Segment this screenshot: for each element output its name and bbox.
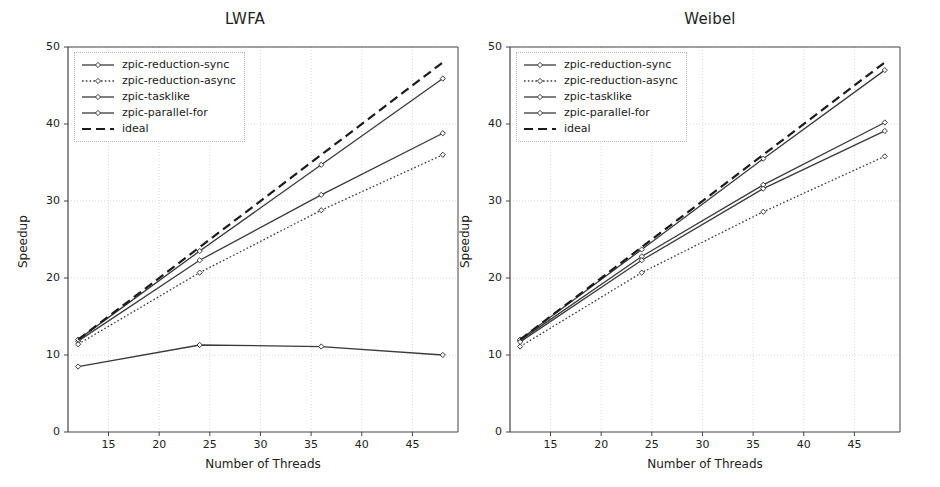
legend-line-sample-zpic-reduction-async <box>81 75 115 87</box>
data-point-marker <box>319 208 324 213</box>
legend-weibel: zpic-reduction-synczpic-reduction-asyncz… <box>516 52 687 142</box>
legend-label: zpic-reduction-async <box>564 75 678 87</box>
data-point-marker <box>639 270 644 275</box>
chart-panel-lwfa: LWFA zpic-reduction-synczpic-reduction-a… <box>0 0 470 487</box>
data-point-marker <box>882 154 887 159</box>
legend-item-zpic-parallel-for[interactable]: zpic-parallel-for <box>523 105 678 121</box>
legend-item-zpic-parallel-for[interactable]: zpic-parallel-for <box>81 105 236 121</box>
x-tick-label: 35 <box>738 438 768 451</box>
y-tick-label: 20 <box>468 271 502 284</box>
x-tick-label: 45 <box>397 438 427 451</box>
x-tick-label: 35 <box>296 438 326 451</box>
legend-label: zpic-reduction-sync <box>122 59 229 71</box>
x-tick-label: 20 <box>586 438 616 451</box>
y-tick-label: 50 <box>26 40 60 53</box>
legend-label: zpic-reduction-sync <box>564 59 671 71</box>
x-tick-label: 20 <box>144 438 174 451</box>
legend-item-zpic-tasklike[interactable]: zpic-tasklike <box>523 89 678 105</box>
data-point-marker <box>761 209 766 214</box>
y-axis-label: Speedup <box>458 215 472 268</box>
series-line-zpic-reduction-async <box>78 155 443 344</box>
y-tick-label: 50 <box>468 40 502 53</box>
legend-label: zpic-tasklike <box>122 91 190 103</box>
data-point-marker <box>440 131 445 136</box>
legend-lwfa: zpic-reduction-synczpic-reduction-asyncz… <box>74 52 245 142</box>
data-point-marker <box>197 270 202 275</box>
y-tick-label: 10 <box>468 348 502 361</box>
data-point-marker <box>197 342 202 347</box>
y-tick-label: 40 <box>26 117 60 130</box>
data-point-marker <box>882 128 887 133</box>
y-tick-label: 30 <box>26 194 60 207</box>
y-tick-label: 10 <box>26 348 60 361</box>
legend-line-sample-zpic-parallel-for <box>81 107 115 119</box>
legend-item-ideal[interactable]: ideal <box>81 121 236 137</box>
legend-item-zpic-reduction-async[interactable]: zpic-reduction-async <box>523 73 678 89</box>
x-axis-label: Number of Threads <box>510 457 900 471</box>
legend-line-sample-ideal <box>81 123 115 135</box>
legend-line-sample-zpic-reduction-sync <box>81 59 115 71</box>
y-tick-label: 0 <box>468 425 502 438</box>
legend-label: zpic-tasklike <box>564 91 632 103</box>
legend-line-sample-ideal <box>523 123 557 135</box>
x-tick-label: 40 <box>347 438 377 451</box>
x-tick-label: 15 <box>94 438 124 451</box>
legend-line-sample-zpic-parallel-for <box>523 107 557 119</box>
legend-item-zpic-reduction-sync[interactable]: zpic-reduction-sync <box>81 57 236 73</box>
legend-item-zpic-tasklike[interactable]: zpic-tasklike <box>81 89 236 105</box>
data-point-marker <box>440 352 445 357</box>
data-point-marker <box>319 192 324 197</box>
legend-line-sample-zpic-tasklike <box>523 91 557 103</box>
x-axis-label: Number of Threads <box>68 457 458 471</box>
data-point-marker <box>440 152 445 157</box>
x-tick-label: 25 <box>637 438 667 451</box>
y-tick-label: 30 <box>468 194 502 207</box>
y-tick-label: 40 <box>468 117 502 130</box>
legend-item-zpic-reduction-sync[interactable]: zpic-reduction-sync <box>523 57 678 73</box>
legend-line-sample-zpic-tasklike <box>81 91 115 103</box>
x-tick-label: 30 <box>687 438 717 451</box>
legend-line-sample-zpic-reduction-async <box>523 75 557 87</box>
legend-item-zpic-reduction-async[interactable]: zpic-reduction-async <box>81 73 236 89</box>
legend-line-sample-zpic-reduction-sync <box>523 59 557 71</box>
y-tick-label: 20 <box>26 271 60 284</box>
x-tick-label: 30 <box>245 438 275 451</box>
legend-label: zpic-parallel-for <box>564 107 650 119</box>
x-tick-label: 15 <box>536 438 566 451</box>
figure-speedup-comparison: LWFA zpic-reduction-synczpic-reduction-a… <box>0 0 940 487</box>
y-axis-label: Speedup <box>16 215 30 268</box>
legend-item-ideal[interactable]: ideal <box>523 121 678 137</box>
legend-label: ideal <box>564 123 591 135</box>
x-tick-label: 40 <box>789 438 819 451</box>
legend-label: zpic-reduction-async <box>122 75 236 87</box>
data-point-marker <box>319 344 324 349</box>
x-tick-label: 45 <box>839 438 869 451</box>
chart-panel-weibel: Weibel zpic-reduction-synczpic-reduction… <box>470 0 940 487</box>
legend-label: zpic-parallel-for <box>122 107 208 119</box>
y-tick-label: 0 <box>26 425 60 438</box>
data-point-marker <box>76 364 81 369</box>
legend-label: ideal <box>122 123 149 135</box>
x-tick-label: 25 <box>195 438 225 451</box>
series-line-zpic-parallel-for <box>78 345 443 367</box>
